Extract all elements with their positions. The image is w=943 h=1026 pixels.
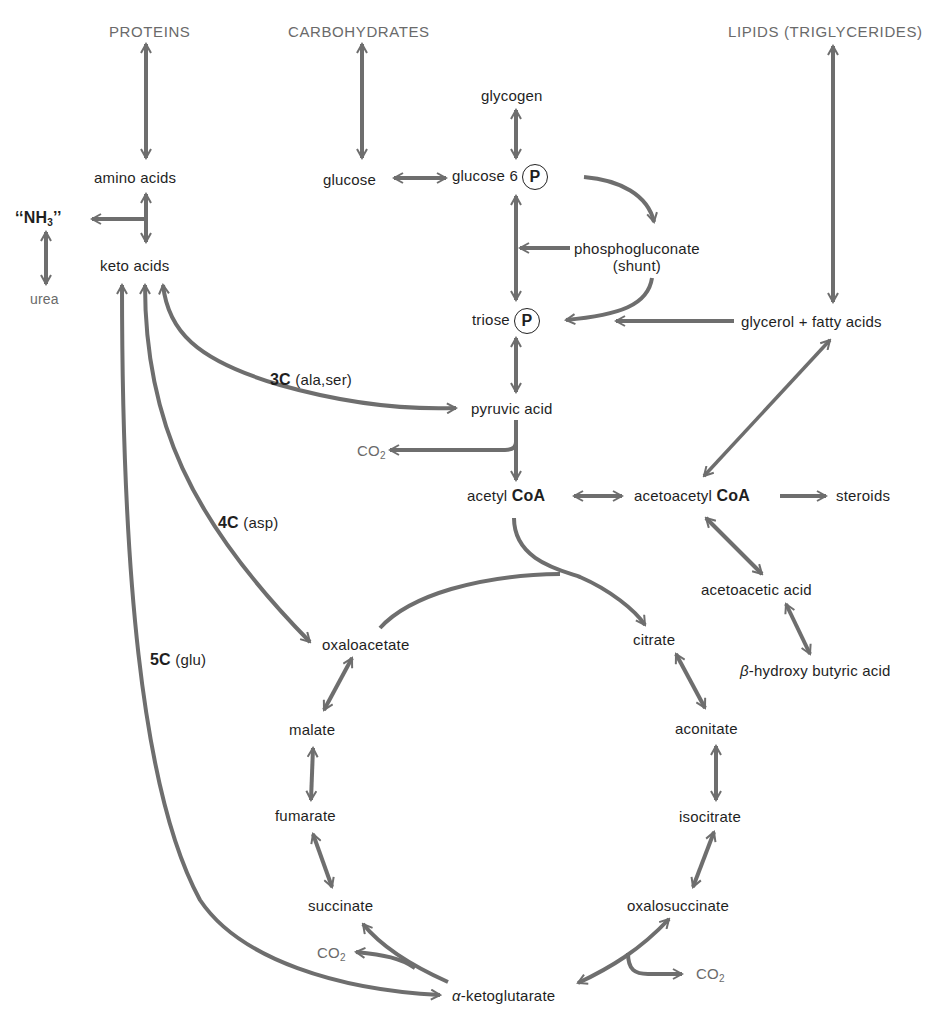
arrow-shunt-triose [566,278,652,320]
node-glycerol-fatty-acids: glycerol + fatty acids [741,314,882,329]
node-fumarate: fumarate [275,808,336,823]
node-succinate: succinate [308,898,373,913]
category-proteins: PROTEINS [109,24,190,39]
node-acetyl-coa: acetyl CoA [467,488,545,504]
arrow-isocitrate-oxalosuccinate [693,832,714,887]
label-3c-ala-ser: 3C (ala,ser) [270,372,352,388]
node-oxalosuccinate: oxalosuccinate [627,898,729,913]
node-citrate: citrate [633,632,675,647]
node-glucose: glucose [323,172,376,187]
node-alpha-ketoglutarate: α-ketoglutarate [452,988,555,1003]
arrow-4c-asp [145,285,310,642]
label-4c-asp: 4C (asp) [218,515,278,531]
phosphate-circle-icon: P [514,308,540,334]
arrow-acetoacetyl-acetoacetic [706,518,762,574]
node-keto-acids: keto acids [100,258,170,273]
arrow-malate-fumarate [311,748,313,800]
node-aconitate: aconitate [675,721,738,736]
arrow-acetylcoa-citrate [514,518,645,625]
node-acetoacetyl-coa: acetoacetyl CoA [634,488,750,504]
arrow-acetoacetic-beta [786,604,810,654]
node-urea: urea [30,292,59,306]
node-nh3: ‘‘NH3’’ [15,210,62,228]
node-steroids: steroids [836,488,890,503]
node-phosphogluconate: phosphogluconate(shunt) [574,240,700,274]
arrow-3c-ala-ser [163,285,456,408]
node-triose-p: trioseP [472,308,540,334]
node-beta-hydroxybutyric-acid: β-hydroxy butyric acid [740,663,891,678]
node-co2-oxalosuccinate: CO2 [696,966,725,984]
node-co2-pyruvate: CO2 [357,443,386,461]
arrow-pyruvic-co2 [390,442,516,450]
category-carbohydrates: CARBOHYDRATES [288,24,430,39]
node-malate: malate [289,722,335,737]
node-isocitrate: isocitrate [679,809,741,824]
arrow-fumarate-succinate [313,834,332,887]
node-glycogen: glycogen [481,88,543,103]
arrow-oxalosuccinate-co2 [628,953,682,974]
label-5c-glu: 5C (glu) [150,652,206,668]
node-glucose6p: glucose 6P [452,164,548,190]
pathway-arrows [0,0,943,1026]
arrow-oxaloacetate-malate [324,658,352,710]
arrow-g6p-shunt [584,177,654,222]
arc-oxaloacetate [380,574,560,628]
category-lipids: LIPIDS (TRIGLYCERIDES) [728,24,923,39]
phosphate-circle-icon: P [522,164,548,190]
node-acetoacetic-acid: acetoacetic acid [701,582,812,597]
node-oxaloacetate: oxaloacetate [322,637,409,652]
arrow-citrate-aconitate [676,654,705,708]
node-co2-akg: CO2 [317,945,346,963]
arrow-fa-acetoacetyl [704,340,830,476]
node-pyruvic-acid: pyruvic acid [471,401,553,416]
node-amino-acids: amino acids [94,170,176,185]
